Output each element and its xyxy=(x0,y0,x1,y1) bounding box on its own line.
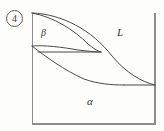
figure-container: 4 β L α xyxy=(0,0,164,131)
liquidus-curve xyxy=(32,13,155,85)
plot-box-frame xyxy=(32,13,155,125)
phase-boundaries xyxy=(32,13,155,85)
item-number-badge: 4 xyxy=(6,10,23,27)
phase-diagram-canvas xyxy=(0,0,164,131)
item-number-text: 4 xyxy=(12,14,17,24)
beta-phase-label: β xyxy=(41,28,46,38)
alpha-phase-label: α xyxy=(87,96,93,107)
liquid-phase-label: L xyxy=(117,27,123,38)
